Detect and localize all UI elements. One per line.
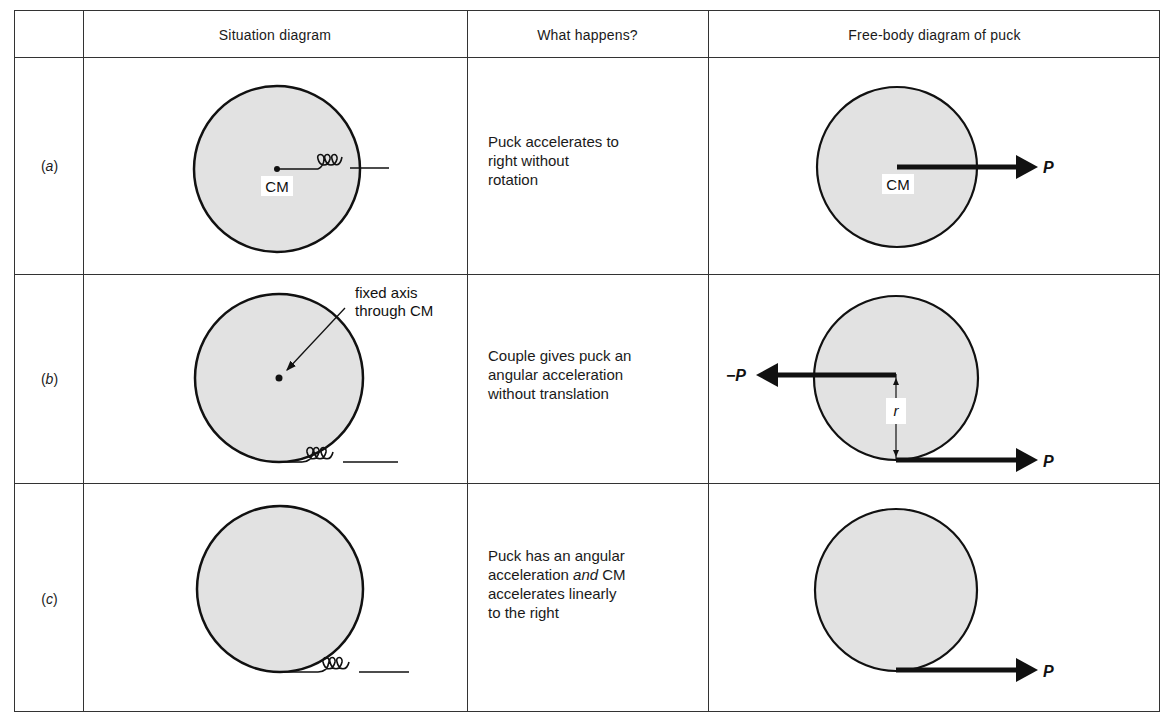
force-label-neg-p: −P [726, 367, 746, 384]
puck-icon [197, 506, 363, 672]
spring-icon [318, 658, 349, 673]
puck-situation-b: fixed axis through CM [195, 284, 433, 462]
force-label-p: P [1043, 663, 1054, 680]
cm-label: CM [265, 178, 288, 195]
free-body-a: P CM [817, 87, 1054, 247]
annotation-label: fixed axis [355, 284, 418, 301]
diagram-figures: CM P CM fixed axis through CM −P r P [0, 0, 1172, 719]
fixed-axis-dot-icon [276, 375, 283, 382]
force-arrow-icon [1016, 155, 1038, 179]
force-label-p: P [1043, 159, 1054, 176]
force-label-p: P [1043, 453, 1054, 470]
puck-situation-a: CM [194, 86, 389, 252]
force-arrow-left-icon [756, 363, 778, 387]
puck-situation-c [197, 506, 409, 672]
puck-icon [815, 509, 977, 671]
annotation-label: through CM [355, 302, 433, 319]
cm-label: CM [886, 176, 909, 193]
free-body-c: P [815, 509, 1054, 682]
force-arrow-right-icon [1016, 448, 1038, 472]
free-body-b: −P r P [726, 296, 1054, 472]
force-arrow-right-icon [1016, 658, 1038, 682]
